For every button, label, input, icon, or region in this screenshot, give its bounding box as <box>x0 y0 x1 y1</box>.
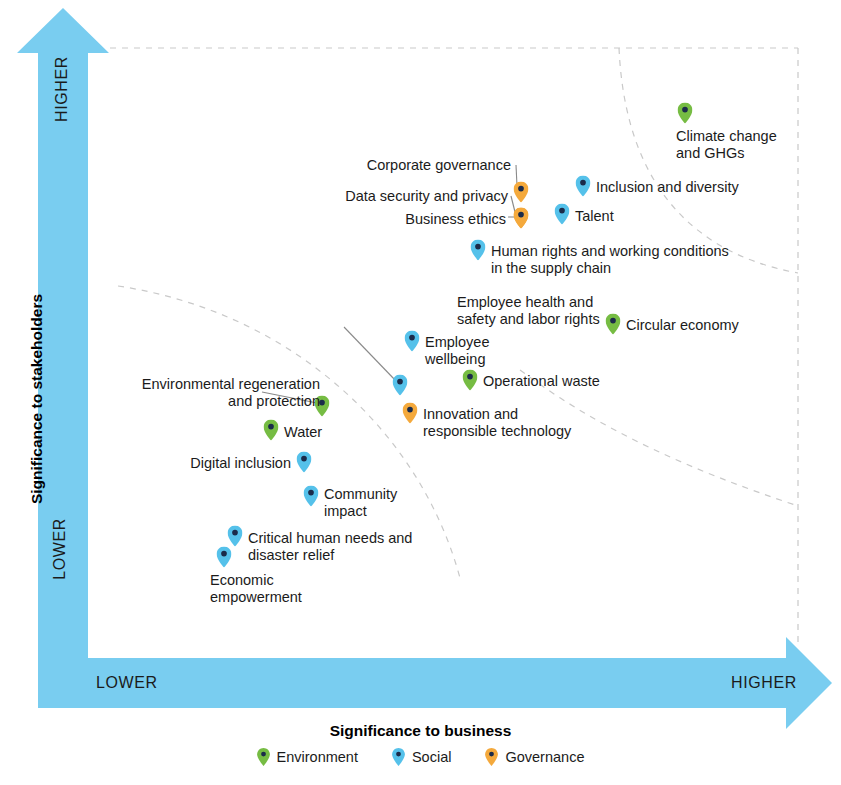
materiality-matrix-chart: HIGHER LOWER LOWER HIGHER Significance t… <box>0 0 841 785</box>
map-pin-icon <box>471 240 486 261</box>
map-pin-icon <box>217 547 232 568</box>
data-point-marker[interactable] <box>405 331 420 352</box>
legend-map-pin-icon <box>257 748 270 766</box>
map-pin-icon <box>463 370 478 391</box>
data-point-label: Corporate governance <box>367 157 511 174</box>
y-axis-title: Significance to stakeholders <box>28 274 46 524</box>
data-point-marker[interactable] <box>678 103 693 124</box>
map-pin-icon <box>297 452 312 473</box>
map-pin-icon <box>485 748 498 766</box>
map-pin-icon <box>304 486 319 507</box>
map-pin-icon <box>606 314 621 335</box>
data-point-marker[interactable] <box>463 370 478 391</box>
data-point-label: Water <box>284 424 322 441</box>
map-pin-icon <box>576 176 591 197</box>
legend-item[interactable]: Governance <box>485 748 584 766</box>
map-pin-icon <box>228 526 243 547</box>
legend-label: Social <box>412 749 452 765</box>
data-point-label: Critical human needs and disaster relief <box>248 530 412 564</box>
legend-map-pin-icon <box>392 748 405 766</box>
data-point-marker[interactable] <box>304 486 319 507</box>
map-pin-icon <box>392 748 405 766</box>
map-pin-icon <box>405 331 420 352</box>
x-axis-higher-label: HIGHER <box>731 674 797 692</box>
legend-label: Environment <box>277 749 358 765</box>
data-point-marker[interactable] <box>297 452 312 473</box>
y-axis-higher-label: HIGHER <box>53 19 71 159</box>
data-point-label: Circular economy <box>626 317 739 334</box>
data-point-marker[interactable] <box>228 526 243 547</box>
data-point-label: Digital inclusion <box>190 455 291 472</box>
data-point-label: Human rights and working conditions in t… <box>491 243 729 277</box>
data-point-label: Employee health and safety and labor rig… <box>457 294 600 328</box>
map-pin-icon <box>678 103 693 124</box>
data-point-label: Talent <box>575 208 614 225</box>
x-axis-title: Significance to business <box>0 722 841 740</box>
x-axis-lower-label: LOWER <box>96 674 158 692</box>
legend-map-pin-icon <box>485 748 498 766</box>
legend-label: Governance <box>505 749 584 765</box>
legend: EnvironmentSocialGovernance <box>0 748 841 766</box>
data-point-label: Climate change and GHGs <box>676 128 777 162</box>
data-point-marker[interactable] <box>264 420 279 441</box>
map-pin-icon <box>514 208 529 229</box>
data-point-marker[interactable] <box>576 176 591 197</box>
data-point-label: Community impact <box>324 486 397 520</box>
axes-arrows <box>0 0 841 785</box>
legend-item[interactable]: Environment <box>257 748 358 766</box>
map-pin-icon <box>393 375 408 396</box>
leader-line <box>344 327 396 381</box>
data-point-label: Innovation and responsible technology <box>423 406 571 440</box>
data-point-marker[interactable] <box>606 314 621 335</box>
map-pin-icon <box>555 204 570 225</box>
map-pin-icon <box>257 748 270 766</box>
legend-item[interactable]: Social <box>392 748 452 766</box>
data-point-marker[interactable] <box>217 547 232 568</box>
data-point-label: Data security and privacy <box>345 188 508 205</box>
data-point-marker[interactable] <box>514 182 529 203</box>
data-point-marker[interactable] <box>514 208 529 229</box>
data-point-label: Inclusion and diversity <box>596 179 739 196</box>
plot-guides <box>0 0 841 785</box>
data-point-marker[interactable] <box>555 204 570 225</box>
data-point-label: Employee wellbeing <box>425 334 489 368</box>
data-point-label: Environmental regeneration and protectio… <box>142 376 320 410</box>
map-pin-icon <box>264 420 279 441</box>
leader-lines <box>0 0 841 785</box>
data-point-marker[interactable] <box>393 375 408 396</box>
map-pin-icon <box>403 403 418 424</box>
data-point-label: Economic empowerment <box>210 572 302 606</box>
data-point-label: Operational waste <box>483 373 600 390</box>
map-pin-icon <box>514 182 529 203</box>
data-point-marker[interactable] <box>471 240 486 261</box>
y-axis-lower-label: LOWER <box>51 479 69 619</box>
data-point-label: Business ethics <box>405 211 506 228</box>
data-point-marker[interactable] <box>403 403 418 424</box>
